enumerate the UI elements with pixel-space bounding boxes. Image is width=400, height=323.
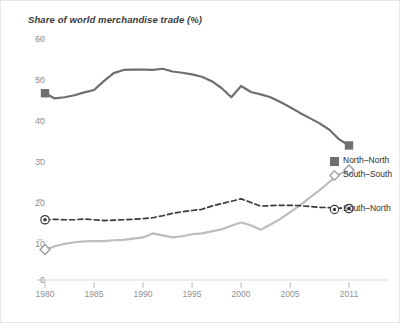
legend-label: North–North	[343, 155, 389, 165]
series-line-0	[45, 69, 349, 146]
legend-label: South–South	[343, 169, 392, 179]
chart-figure: Share of world merchandise trade (%) 60 …	[0, 0, 400, 323]
series-marker-dot-2	[43, 218, 47, 222]
series-marker-1	[40, 244, 50, 254]
square-marker-icon	[329, 156, 340, 167]
legend-label: South–North	[343, 203, 391, 213]
diamond-marker-icon	[329, 170, 340, 181]
series-marker-0	[41, 89, 49, 97]
target-marker-icon	[329, 204, 340, 215]
series-marker-0	[345, 141, 353, 149]
plot-area	[1, 1, 400, 323]
